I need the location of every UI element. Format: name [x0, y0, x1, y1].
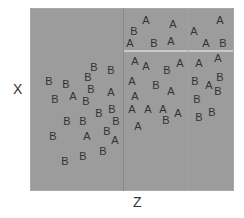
- data-point-b: B: [79, 151, 86, 162]
- data-point-a: A: [202, 38, 209, 49]
- data-point-b: B: [214, 86, 221, 97]
- data-point-a: A: [107, 87, 114, 98]
- data-point-b: B: [103, 126, 110, 137]
- data-point-a: A: [176, 58, 183, 69]
- data-point-a: A: [126, 38, 133, 49]
- data-point-b: B: [191, 76, 198, 87]
- data-point-a: A: [134, 121, 141, 132]
- data-point-b: B: [95, 108, 102, 119]
- data-point-b: B: [108, 104, 115, 115]
- data-point-b: B: [84, 72, 91, 83]
- vertical-split-line: [123, 8, 124, 191]
- data-point-b: B: [112, 116, 119, 127]
- data-point-b: B: [219, 38, 226, 49]
- data-point-a: A: [128, 104, 135, 115]
- data-point-a: A: [214, 53, 221, 64]
- data-point-a: A: [131, 91, 138, 102]
- data-point-b: B: [79, 116, 86, 127]
- data-point-b: B: [82, 96, 89, 107]
- y-axis-label: X: [13, 81, 22, 97]
- x-axis-label: Z: [133, 194, 142, 210]
- data-point-b: B: [45, 76, 52, 87]
- data-point-b: B: [107, 65, 114, 76]
- data-point-a: A: [167, 36, 174, 47]
- data-point-b: B: [63, 116, 70, 127]
- data-point-a: A: [167, 86, 174, 97]
- data-point-b: B: [49, 131, 56, 142]
- data-point-b: B: [99, 146, 106, 157]
- data-point-b: B: [61, 156, 68, 167]
- data-point-b: B: [87, 84, 94, 95]
- vertical-split-line: [188, 8, 189, 191]
- data-point-b: B: [51, 94, 58, 105]
- data-point-b: B: [150, 38, 157, 49]
- data-point-a: A: [190, 26, 197, 37]
- data-point-b: B: [130, 26, 137, 37]
- data-point-b: B: [163, 65, 170, 76]
- data-point-a: A: [195, 58, 202, 69]
- data-point-a: A: [128, 76, 135, 87]
- data-point-a: A: [111, 135, 118, 146]
- data-point-a: A: [205, 80, 212, 91]
- data-point-b: B: [162, 115, 169, 126]
- data-point-a: A: [174, 108, 181, 119]
- data-point-a: A: [83, 131, 90, 142]
- data-point-a: A: [142, 15, 149, 26]
- data-point-a: A: [216, 15, 223, 26]
- data-point-a: A: [169, 19, 176, 30]
- data-point-b: B: [193, 94, 200, 105]
- data-point-b: B: [152, 80, 159, 91]
- data-point-a: A: [69, 91, 76, 102]
- data-point-a: A: [142, 61, 149, 72]
- data-point-b: B: [195, 112, 202, 123]
- data-point-a: A: [144, 104, 151, 115]
- data-point-b: B: [216, 72, 223, 83]
- data-point-b: B: [208, 107, 215, 118]
- data-point-b: B: [62, 79, 69, 90]
- data-point-a: A: [131, 56, 138, 67]
